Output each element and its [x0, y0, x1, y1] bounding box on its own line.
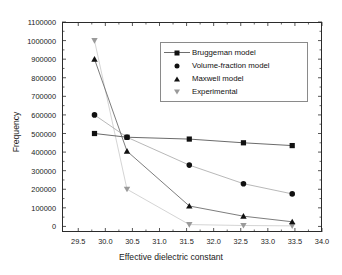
legend-key-triangle-down-icon — [164, 86, 190, 98]
data-point — [289, 191, 295, 197]
data-point — [92, 131, 97, 136]
chart-root: 0100000200000300000400000500000600000700… — [0, 0, 342, 275]
series-volume-fraction-model — [92, 112, 295, 197]
data-point — [187, 136, 192, 141]
data-point — [91, 56, 97, 62]
legend-key-square-icon — [164, 47, 190, 59]
legend-label: Maxwell model — [190, 74, 244, 83]
legend-key-triangle-up-icon — [164, 73, 190, 85]
data-point — [91, 38, 97, 44]
legend-item-experimental: Experimental — [164, 85, 303, 98]
data-point — [290, 143, 295, 148]
legend-label: Volume-fraction model — [190, 61, 270, 70]
data-point — [124, 187, 130, 193]
legend-item-bruggeman-model: Bruggeman model — [164, 46, 303, 59]
legend-item-maxwell-model: Maxwell model — [164, 72, 303, 85]
chart-legend: Bruggeman model Volume-fraction model Ma… — [160, 42, 308, 102]
legend-label: Bruggeman model — [190, 48, 256, 57]
data-point — [124, 135, 129, 140]
y-axis-title: Frequency — [11, 87, 21, 177]
x-axis-title: Effective dielectric constant — [0, 252, 342, 262]
data-point — [241, 140, 246, 145]
legend-item-volume-fraction-model: Volume-fraction model — [164, 59, 303, 72]
data-point — [124, 148, 130, 154]
data-point — [186, 162, 192, 168]
legend-label: Experimental — [190, 87, 238, 96]
legend-key-circle-icon — [164, 60, 190, 72]
data-point — [241, 181, 247, 187]
data-point — [92, 112, 98, 118]
